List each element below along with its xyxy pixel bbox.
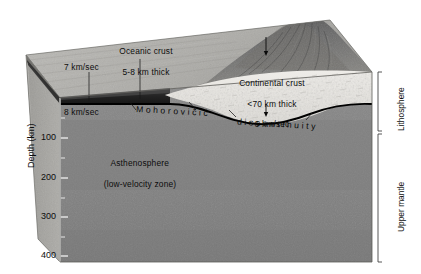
depth-tick-400: 400 [34, 250, 56, 260]
asthenosphere-line1: Asthenosphere [111, 158, 170, 168]
label-lithosphere: Lithosphere [396, 87, 406, 131]
figure-canvas: Oceanic crust 5-8 km thick Continental c… [0, 0, 421, 274]
block-diagram [0, 0, 421, 274]
label-velocity-upper: 7 km/sec [64, 62, 99, 72]
bracket-lithosphere [378, 72, 382, 131]
bracket-upper-mantle [378, 134, 382, 262]
depth-tick-300: 300 [34, 211, 56, 221]
label-upper-mantle: Upper mantle [396, 182, 406, 232]
depth-axis-title: Depth (km) [26, 123, 36, 168]
oceanic-crust-line1: Oceanic crust [119, 46, 172, 56]
label-velocity-lower: 8 km/sec [64, 107, 99, 117]
label-asthenosphere: Asthenosphere (low-velocity zone) [79, 148, 191, 199]
depth-tick-100: 100 [34, 132, 56, 142]
asthenosphere-line2: (low-velocity zone) [104, 179, 177, 189]
right-brackets [378, 72, 382, 262]
continental-crust-line2: <70 km thick [247, 99, 296, 109]
depth-tick-200: 200 [34, 172, 56, 182]
oceanic-crust-line2: 5-8 km thick [122, 67, 169, 77]
continental-crust-line1: Continental crust [239, 78, 305, 88]
label-oceanic-crust: Oceanic crust 5-8 km thick [97, 36, 185, 87]
